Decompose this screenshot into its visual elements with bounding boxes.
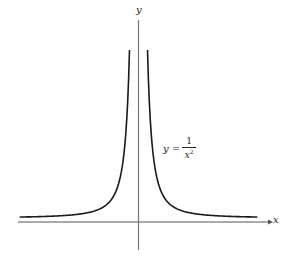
equation-numerator: 1 [186,137,192,147]
x-axis-label: x [273,214,279,225]
curve-right-branch [148,50,258,217]
equation-label: y = 1 x2 [163,137,196,160]
curve-left-branch [20,50,130,217]
y-axis-label: y [136,4,142,15]
equation-exponent: 2 [190,148,194,155]
equation-lhs: y = [163,143,180,154]
plot-area [0,0,288,265]
equation-fraction: 1 x2 [182,137,196,160]
